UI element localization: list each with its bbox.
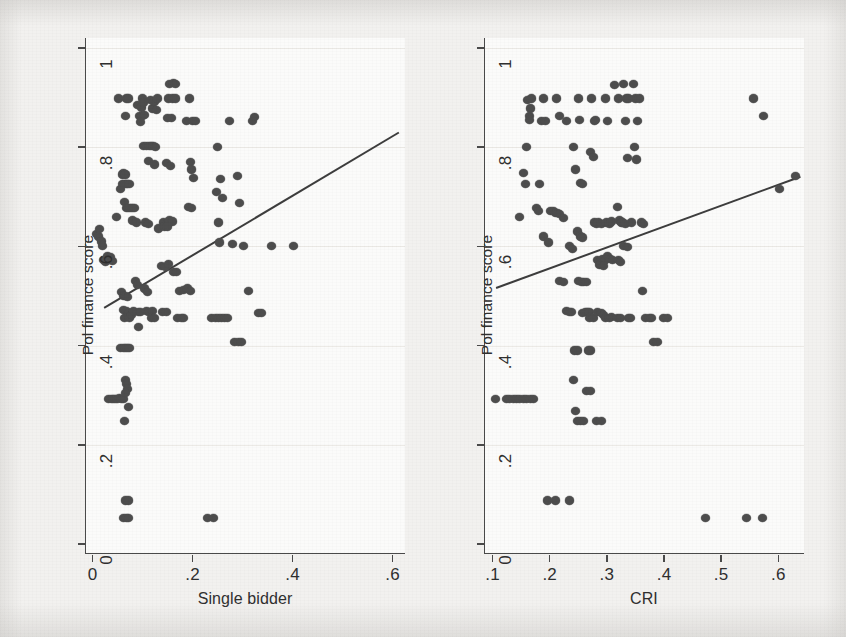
y-tick [477, 543, 484, 544]
data-point [616, 258, 625, 266]
data-point [515, 213, 524, 221]
data-point [121, 389, 130, 397]
data-point [541, 117, 550, 125]
data-point [121, 170, 130, 178]
y-axis-title-left: Pol finance score [79, 230, 97, 360]
x-tick-label: .3 [587, 565, 627, 585]
data-point [289, 242, 298, 250]
y-tick [78, 444, 85, 445]
data-point [136, 118, 145, 126]
data-point [187, 204, 196, 212]
data-point [526, 104, 535, 112]
data-point [638, 287, 647, 295]
gridline-y [86, 48, 405, 49]
data-point [171, 94, 180, 102]
data-point [166, 162, 175, 170]
y-tick [78, 543, 85, 544]
data-point [186, 287, 195, 295]
data-point [529, 395, 538, 403]
data-point [233, 172, 242, 180]
x-tick [778, 555, 779, 562]
y-tick [78, 47, 85, 48]
x-axis-title-left: Single bidder [165, 590, 325, 608]
data-point [124, 403, 133, 411]
x-tick-label: .6 [373, 565, 413, 585]
data-point [639, 220, 648, 228]
data-point [189, 174, 198, 182]
y-tick-label: .4 [496, 345, 516, 379]
gridline-y [485, 48, 804, 49]
data-point [601, 94, 610, 102]
data-point [130, 204, 139, 212]
data-point [647, 314, 656, 322]
data-point [125, 344, 134, 352]
data-point [749, 94, 758, 102]
data-point [578, 180, 587, 188]
gridline-y [86, 445, 405, 446]
data-point [267, 242, 276, 250]
data-point [573, 346, 582, 354]
data-point [575, 116, 584, 124]
data-point [758, 514, 767, 522]
data-point [244, 287, 253, 295]
data-point [150, 160, 159, 168]
data-point [132, 218, 141, 226]
x-axis-title-right: CRI [564, 590, 724, 608]
x-tick-label: .6 [758, 565, 798, 585]
x-tick-label: .5 [701, 565, 741, 585]
data-point [539, 94, 548, 102]
data-point [626, 314, 635, 322]
figure-root: 0.2.4.6.81 0.2.4.6 Pol finance score Sin… [0, 0, 846, 637]
x-tick-label: .1 [473, 565, 513, 585]
data-point [527, 94, 536, 102]
data-point [120, 417, 129, 425]
x-tick [720, 555, 721, 562]
y-tick-label: .8 [97, 146, 117, 180]
data-point [163, 222, 172, 230]
data-point [567, 308, 576, 316]
data-point [574, 94, 583, 102]
data-point [578, 233, 587, 241]
data-point [629, 80, 638, 88]
data-point [212, 188, 221, 196]
data-point [627, 218, 636, 226]
x-tick-label: .4 [273, 565, 313, 585]
data-point [742, 514, 751, 522]
data-point [191, 117, 200, 125]
plot-inner-left [86, 38, 405, 553]
y-tick-label: .6 [97, 245, 117, 279]
data-point [185, 94, 194, 102]
data-point [228, 240, 237, 248]
data-point [633, 117, 642, 125]
data-point [535, 180, 544, 188]
y-tick [477, 444, 484, 445]
data-point [597, 417, 606, 425]
gridline-y [485, 246, 804, 247]
data-point [153, 94, 162, 102]
x-tick [92, 555, 93, 562]
data-point [223, 314, 232, 322]
data-point [225, 117, 234, 125]
data-point [586, 346, 595, 354]
x-tick-label: 0 [73, 565, 113, 585]
data-point [144, 220, 153, 228]
data-point [619, 80, 628, 88]
y-tick [78, 146, 85, 147]
data-point [603, 117, 612, 125]
data-point [519, 169, 528, 177]
data-point [187, 165, 196, 173]
data-point [544, 238, 553, 246]
gridline-y [485, 346, 804, 347]
x-tick [392, 555, 393, 562]
data-point [143, 288, 152, 296]
data-point [534, 207, 543, 215]
plot-inner-right [485, 38, 804, 553]
data-point [551, 496, 560, 504]
data-point [124, 514, 133, 522]
data-point [140, 111, 149, 119]
data-point [209, 514, 218, 522]
data-point [569, 143, 578, 151]
data-point [791, 172, 800, 180]
data-point [579, 417, 588, 425]
data-point [630, 143, 639, 151]
